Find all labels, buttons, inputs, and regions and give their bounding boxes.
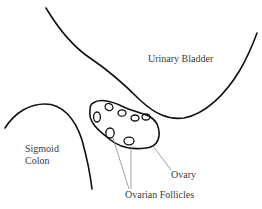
ovary-label: Ovary <box>171 169 196 181</box>
urinary-bladder-label: Urinary Bladder <box>148 53 213 65</box>
anatomy-diagram: Urinary Bladder Sigmoid Colon Ovary Ovar… <box>0 0 262 209</box>
follicle <box>106 128 114 138</box>
ovarian-follicles-label: Ovarian Follicles <box>125 189 194 201</box>
follicle <box>104 102 114 112</box>
follicle <box>131 115 139 121</box>
sigmoid-colon-label-line1: Sigmoid <box>25 143 59 155</box>
sigmoid-colon-label-line2: Colon <box>25 155 49 167</box>
diagram-drawing <box>0 0 262 209</box>
follicle <box>118 110 126 116</box>
ovary-leader-line <box>153 146 171 170</box>
follicle <box>124 137 134 145</box>
ovarian-follicles <box>94 102 150 145</box>
follicle <box>94 112 101 122</box>
